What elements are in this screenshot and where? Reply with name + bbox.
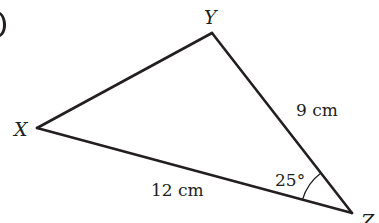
side-label-xz: 12 cm bbox=[151, 180, 204, 200]
side-label-yz: 9 cm bbox=[296, 100, 338, 120]
angle-arc-z bbox=[303, 173, 322, 200]
vertex-label-y: Y bbox=[204, 6, 219, 28]
side-xy bbox=[37, 33, 212, 128]
triangle-diagram: Y X Z 9 cm 12 cm 25° bbox=[0, 0, 379, 223]
angle-label-z: 25° bbox=[275, 170, 305, 190]
cropped-part-label-fragment bbox=[0, 12, 6, 37]
vertex-label-z: Z bbox=[360, 210, 375, 223]
vertex-label-x: X bbox=[12, 118, 29, 140]
